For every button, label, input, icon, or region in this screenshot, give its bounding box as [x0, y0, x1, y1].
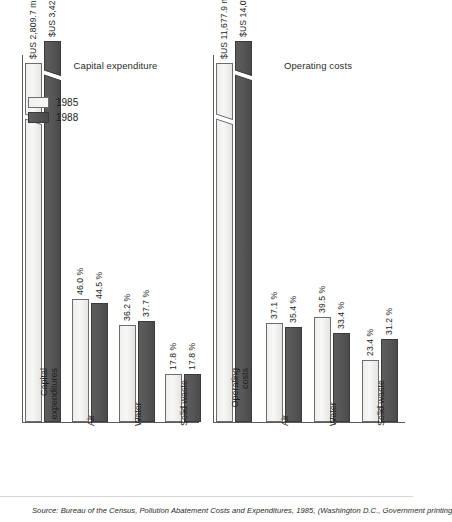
legend-swatch-1988-icon [28, 112, 49, 123]
x-axis-category-label: Solid waste [376, 380, 386, 426]
bar-value-label: $US 2,809.7 million [28, 0, 38, 59]
bar-value-label: $US 3,423.3 million [47, 0, 57, 37]
bar-value-label: 17.8 % [187, 343, 197, 370]
source-note: Source: Bureau of the Census, Pollution … [32, 506, 405, 515]
bar-value-label: 17.8 % [168, 343, 178, 370]
bar-value-label: 31.2 % [384, 308, 394, 335]
bar-group: 23.4 %31.2 %Solid waste [214, 55, 403, 422]
chart-panel-operating-costs: Operating costs $US 11,677.9 million$US … [205, 52, 405, 427]
page-title: Pollution abatement expenditures [0, 0, 413, 3]
x-axis-category-label: Solid waste [179, 380, 189, 426]
legend-item-1985: 1985 [28, 95, 78, 109]
plot-area-operating: $US 11,677.9 million$US 14,008.6 million… [214, 55, 403, 422]
legend-item-1988: 1988 [28, 110, 78, 124]
bar-value-label: $US 14,008.6 million [238, 0, 248, 37]
legend-label-1988: 1988 [56, 112, 78, 123]
bar-value-label: 23.4 % [365, 329, 375, 356]
chart-legend: 1985 1988 [28, 95, 78, 125]
source-divider [0, 496, 413, 497]
legend-label-1985: 1985 [56, 97, 78, 108]
legend-swatch-1985-icon [28, 97, 49, 108]
bar-value-label: $US 11,677.9 million [219, 0, 229, 59]
